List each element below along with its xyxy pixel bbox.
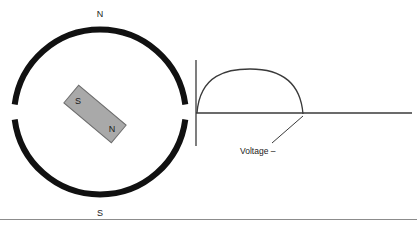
stator-north-label: N: [97, 9, 104, 19]
stator-arc-upper: [15, 29, 186, 104]
bar-magnet-body: [64, 85, 126, 142]
voltage-half-cycle-curve: [197, 69, 303, 114]
voltage-label: Voltage –: [240, 146, 276, 156]
stator-south-label: S: [97, 208, 103, 218]
magnet-north-label: N: [109, 124, 116, 134]
magnet-south-label: S: [75, 96, 81, 106]
bar-magnet[interactable]: [64, 85, 126, 142]
figure-canvas: N S S N Voltage –: [0, 0, 417, 230]
voltage-waveform: Voltage –: [196, 60, 412, 156]
voltage-label-leader-line: [272, 116, 303, 143]
